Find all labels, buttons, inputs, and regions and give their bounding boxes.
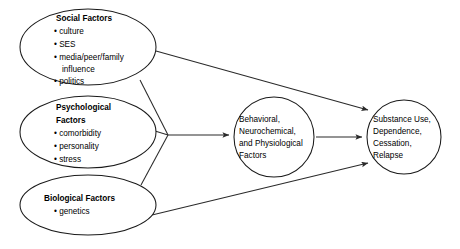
biopsychosocial-diagram: Social Factors • culture • SES • media/p… (0, 0, 460, 249)
mediator-factors-circle (234, 97, 314, 177)
social-factors-bullet-1: • SES (54, 40, 76, 49)
mediator-line-2: and Physiological (239, 139, 303, 148)
psychological-factors-bullet-2: • stress (54, 155, 81, 164)
social-factors-bullet-4: • politics (54, 77, 84, 86)
outcome-circle (367, 100, 441, 174)
social-factors-title: Social Factors (56, 14, 112, 23)
diagram-canvas: Social Factors • culture • SES • media/p… (0, 0, 460, 249)
psychological-factors-title-line2: Factors (56, 116, 86, 125)
biological-factors-bullet-0: • genetics (54, 207, 90, 216)
biological-factors-ellipse (20, 175, 156, 235)
social-factors-bullet-2: • media/peer/family (54, 53, 125, 62)
outcome-line-1: Dependence, (373, 127, 422, 136)
outcome-line-0: Substance Use, (373, 115, 431, 124)
outcome-line-3: Relapse (373, 151, 403, 160)
social-factors-bullet-3: influence (62, 65, 95, 74)
mediator-line-0: Behavioral, (239, 115, 280, 124)
social-factors-bullet-0: • culture (54, 27, 84, 36)
node-outcome[interactable]: Substance Use, Dependence, Cessation, Re… (367, 100, 441, 174)
psychological-factors-title-line1: Psychological (56, 103, 111, 112)
psychological-factors-bullet-0: • comorbidity (54, 129, 102, 138)
mediator-line-1: Neurochemical, (239, 127, 296, 136)
node-biological-factors[interactable]: Biological Factors • genetics (20, 175, 156, 235)
mediator-line-3: Factors (239, 151, 266, 160)
psychological-factors-bullet-1: • personality (54, 142, 100, 151)
outcome-line-2: Cessation, (373, 139, 412, 148)
biological-factors-title: Biological Factors (44, 194, 115, 203)
node-psychological-factors[interactable]: Psychological Factors • comorbidity • pe… (20, 96, 156, 168)
node-mediator-factors[interactable]: Behavioral, Neurochemical, and Physiolog… (234, 97, 314, 177)
node-social-factors[interactable]: Social Factors • culture • SES • media/p… (20, 9, 156, 86)
